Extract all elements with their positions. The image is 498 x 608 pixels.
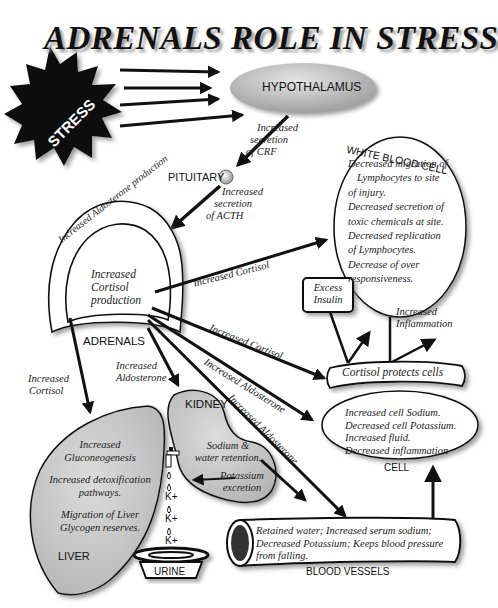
- cortisol-protects-label: Cortisol protects cells: [342, 366, 443, 379]
- potassium-excretion-label: Potassiumexcretion: [210, 470, 274, 494]
- excess-insulin-label: ExcessInsulin: [305, 282, 351, 306]
- cortisol-production-label: IncreasedCortisolproduction: [91, 268, 141, 308]
- cortisol-to-liver-label: IncreasedCortisol: [28, 373, 69, 397]
- acth-label: Increasedsecretionof ACTH: [212, 186, 263, 222]
- cell-label: CELL: [384, 462, 409, 474]
- crf-label: Increasedsecretionof CRF: [257, 122, 298, 158]
- liver-effects: Increased Gluconeogenesis Increased deto…: [30, 438, 170, 534]
- potassium-drop-3: K+: [165, 535, 178, 547]
- blood-vessels-effects: Retained water; Increased serum sodium; …: [256, 525, 443, 563]
- blood-vessels-label: BLOOD VESSELS: [306, 566, 389, 578]
- urine-label: URINE: [154, 566, 185, 578]
- liver-label: LIVER: [58, 550, 90, 563]
- wbc-effects: Decreased migration of Lymphocytes to si…: [348, 157, 447, 287]
- stress-arrows: [120, 70, 242, 126]
- aldosterone-to-kidney-label: IncreasedAldosterone: [116, 360, 166, 384]
- adrenals-label: ADRENALS: [83, 335, 145, 348]
- kidney-retention-label: Sodium &water retention.: [188, 440, 268, 464]
- inflammation-label: IncreasedInflammation: [396, 306, 453, 330]
- kidney-label: KIDNEY: [185, 398, 228, 411]
- hypothalamus-label: HYPOTHALAMUS: [262, 81, 361, 95]
- pituitary-label: PITUITARY: [168, 171, 224, 184]
- page-title: ADRENALS ROLE IN STRESS: [44, 20, 498, 57]
- stress-starburst-icon: [4, 46, 122, 166]
- cell-effects: Increased cell Sodium. Decreased cell Po…: [345, 407, 456, 457]
